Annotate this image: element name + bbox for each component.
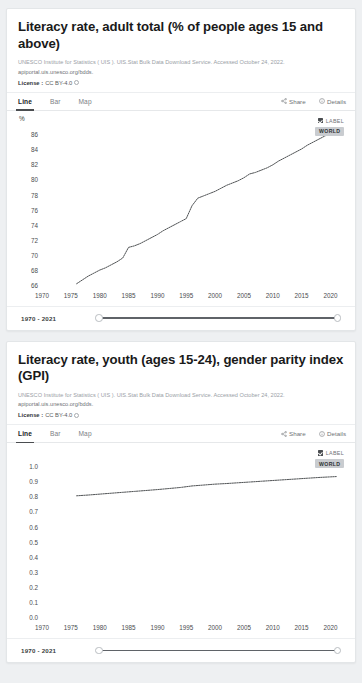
share-button[interactable]: Share <box>281 430 306 437</box>
year-range-label: 1970 - 2021 <box>21 315 95 322</box>
page-title: Literacy rate, youth (ages 15-24), gende… <box>18 352 344 385</box>
source-line-1: UNESCO Institute for Statistics ( UIS ).… <box>18 391 344 401</box>
tab-line[interactable]: Line <box>18 424 32 443</box>
share-icon <box>281 431 287 437</box>
svg-text:2000: 2000 <box>208 292 223 299</box>
slider-handle-right[interactable] <box>334 647 342 655</box>
chart-area-literacy-adult: % LABEL WORLD 66687072747678808284861970… <box>7 111 355 304</box>
chart-card-literacy-adult: Literacy rate, adult total (% of people … <box>6 8 356 331</box>
year-range-slider[interactable] <box>95 645 341 657</box>
chart-legend: LABEL WORLD <box>315 118 344 136</box>
card-header: Literacy rate, adult total (% of people … <box>7 9 355 92</box>
svg-text:66: 66 <box>31 282 39 289</box>
line-chart-svg: 0.00.10.20.30.40.50.60.70.80.91.01970197… <box>16 449 346 634</box>
svg-text:2010: 2010 <box>266 292 281 299</box>
svg-text:0.9: 0.9 <box>29 478 38 485</box>
source-line-1: UNESCO Institute for Statistics ( UIS ).… <box>18 58 344 68</box>
tab-bar[interactable]: Bar <box>50 424 61 443</box>
details-button[interactable]: Details <box>319 98 346 105</box>
svg-text:2005: 2005 <box>237 624 252 631</box>
license-label: License : <box>18 80 43 86</box>
info-circle-icon[interactable] <box>74 413 79 418</box>
details-button[interactable]: Details <box>319 430 346 437</box>
legend-label-toggle[interactable]: LABEL <box>318 118 344 124</box>
chart-area-literacy-youth-gpi: LABEL WORLD 0.00.10.20.30.40.50.60.70.80… <box>7 443 355 636</box>
svg-text:1970: 1970 <box>35 624 50 631</box>
tab-bar[interactable]: Bar <box>50 92 61 111</box>
svg-text:1980: 1980 <box>93 292 108 299</box>
legend-label-text: LABEL <box>326 450 344 456</box>
license-row: License : CC BY-4.0 <box>18 412 344 418</box>
svg-text:0.1: 0.1 <box>29 599 38 606</box>
series-tag-world[interactable]: WORLD <box>315 459 344 468</box>
slider-handle-left[interactable] <box>95 314 103 322</box>
legend-checkbox[interactable] <box>318 118 323 123</box>
svg-text:0.4: 0.4 <box>29 554 38 561</box>
details-label: Details <box>327 430 346 437</box>
tab-map[interactable]: Map <box>79 92 92 111</box>
legend-checkbox[interactable] <box>318 450 323 455</box>
slider-track[interactable] <box>99 650 337 652</box>
info-circle-icon <box>319 98 325 104</box>
svg-text:2005: 2005 <box>237 292 252 299</box>
svg-text:0.7: 0.7 <box>29 509 38 516</box>
svg-text:1.0: 1.0 <box>29 463 38 470</box>
svg-text:0.6: 0.6 <box>29 524 38 531</box>
tab-map[interactable]: Map <box>79 424 92 443</box>
chart-card-literacy-youth-gpi: Literacy rate, youth (ages 15-24), gende… <box>6 341 356 664</box>
svg-text:2015: 2015 <box>295 292 310 299</box>
svg-text:1990: 1990 <box>150 292 165 299</box>
slider-track[interactable] <box>99 317 337 319</box>
svg-text:0.3: 0.3 <box>29 569 38 576</box>
legend-label-toggle[interactable]: LABEL <box>318 450 344 456</box>
svg-text:76: 76 <box>31 206 39 213</box>
page-root: Literacy rate, adult total (% of people … <box>0 0 362 683</box>
svg-text:86: 86 <box>31 131 39 138</box>
share-label: Share <box>289 98 306 105</box>
share-icon <box>281 98 287 104</box>
svg-text:84: 84 <box>31 146 39 153</box>
svg-text:2010: 2010 <box>266 624 281 631</box>
source-line-2: apiportal.uis.unesco.org/bdds. <box>18 68 344 78</box>
svg-text:80: 80 <box>31 176 39 183</box>
line-chart-svg: 6668707274767880828486197019751980198519… <box>16 117 346 302</box>
svg-text:2020: 2020 <box>323 292 338 299</box>
page-title: Literacy rate, adult total (% of people … <box>18 19 344 52</box>
svg-text:1990: 1990 <box>150 624 165 631</box>
license-row: License : CC BY-4.0 <box>18 80 344 86</box>
svg-text:2020: 2020 <box>323 624 338 631</box>
license-value: CC BY-4.0 <box>45 412 72 418</box>
svg-text:74: 74 <box>31 221 39 228</box>
share-button[interactable]: Share <box>281 98 306 105</box>
svg-text:1995: 1995 <box>179 292 194 299</box>
svg-text:1985: 1985 <box>122 624 137 631</box>
info-circle-icon <box>319 431 325 437</box>
svg-text:78: 78 <box>31 191 39 198</box>
chart-tabs: Line Bar Map Share D <box>7 92 355 111</box>
svg-text:1985: 1985 <box>122 292 137 299</box>
svg-text:72: 72 <box>31 237 39 244</box>
svg-text:0.8: 0.8 <box>29 493 38 500</box>
card-header: Literacy rate, youth (ages 15-24), gende… <box>7 342 355 425</box>
svg-text:0.0: 0.0 <box>29 615 38 622</box>
svg-text:0.5: 0.5 <box>29 539 38 546</box>
svg-text:1975: 1975 <box>64 624 79 631</box>
year-range-label: 1970 - 2021 <box>21 647 95 654</box>
chart-legend: LABEL WORLD <box>315 450 344 468</box>
series-tag-world[interactable]: WORLD <box>315 127 344 136</box>
svg-text:68: 68 <box>31 267 39 274</box>
y-axis-unit: % <box>19 115 25 122</box>
info-circle-icon[interactable] <box>74 80 79 85</box>
tab-line[interactable]: Line <box>18 92 32 111</box>
share-label: Share <box>289 430 306 437</box>
svg-text:1995: 1995 <box>179 624 194 631</box>
svg-text:2000: 2000 <box>208 624 223 631</box>
details-label: Details <box>327 98 346 105</box>
slider-handle-right[interactable] <box>334 314 342 322</box>
legend-label-text: LABEL <box>326 118 344 124</box>
svg-text:2015: 2015 <box>295 624 310 631</box>
year-range-slider-row: 1970 - 2021 <box>7 306 355 330</box>
year-range-slider[interactable] <box>95 312 341 324</box>
license-value: CC BY-4.0 <box>45 80 72 86</box>
slider-handle-left[interactable] <box>95 647 103 655</box>
